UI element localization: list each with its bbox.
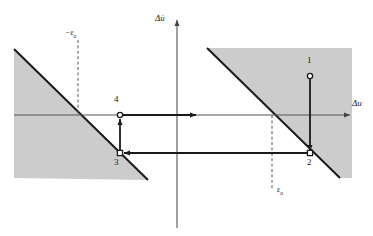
neg-epsilon-label-sub: u xyxy=(74,33,77,39)
x-axis-label-text: Δu xyxy=(352,98,362,108)
neg-epsilon-label-text: −ε xyxy=(65,28,74,37)
point-label-1: 1 xyxy=(307,56,312,65)
y-axis-label: Δu̇ xyxy=(155,14,165,23)
point-label-2: 2 xyxy=(307,158,312,167)
point-marker-3 xyxy=(117,150,122,155)
diagram-canvas xyxy=(0,0,373,236)
point-marker-2 xyxy=(307,150,312,155)
right-shaded-region xyxy=(207,48,352,178)
phase-plane-figure: Δu̇ Δu −εu εu 1 2 3 4 xyxy=(0,0,373,236)
pos-epsilon-label-sub: u xyxy=(280,190,283,196)
point-marker-1 xyxy=(307,73,312,78)
x-axis-label: Δu xyxy=(352,99,362,108)
neg-epsilon-label: −εu xyxy=(65,29,76,39)
point-label-3: 3 xyxy=(114,158,119,167)
point-label-4: 4 xyxy=(114,95,119,104)
y-axis-label-text: Δu̇ xyxy=(155,13,165,23)
pos-epsilon-label: εu xyxy=(277,186,283,196)
point-marker-4 xyxy=(117,112,122,117)
